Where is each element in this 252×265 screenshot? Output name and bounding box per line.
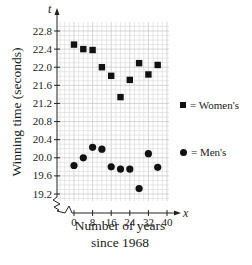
men-data-point: [117, 165, 124, 172]
y-axis-variable-label: t: [48, 2, 52, 16]
y-tick-label: 22.0: [33, 61, 53, 73]
men-data-point: [98, 146, 105, 153]
men-data-point: [126, 165, 133, 172]
men-data-point: [80, 154, 87, 161]
legend-label-men: = Men's: [191, 146, 226, 158]
men-data-point: [108, 163, 115, 170]
square-marker-icon: [180, 102, 186, 108]
men-data-point: [136, 185, 143, 192]
women-data-point: [89, 47, 95, 53]
legend-item-men: = Men's: [180, 145, 239, 159]
y-tick-label: 19.2: [33, 188, 52, 200]
men-data-point: [89, 144, 96, 151]
chart-legend: = Women's = Men's: [180, 98, 239, 192]
y-tick-label: 21.2: [33, 97, 52, 109]
women-data-point: [99, 64, 105, 70]
legend-label-women: = Women's: [190, 99, 239, 111]
men-data-point: [70, 162, 77, 169]
legend-item-women: = Women's: [180, 98, 239, 112]
women-data-point: [108, 73, 114, 79]
women-data-point: [127, 77, 133, 83]
chart-grid: [57, 22, 169, 201]
women-data-point: [71, 41, 77, 47]
women-data-point: [145, 71, 151, 77]
x-axis-label: Number of years since 1968: [40, 217, 200, 251]
y-axis-label: Winning time (seconds): [9, 37, 25, 187]
y-tick-label: 20.8: [33, 115, 53, 127]
x-axis-label-line1: Number of years: [40, 217, 200, 234]
x-axis-label-line2: since 1968: [40, 234, 200, 251]
women-data-point: [80, 46, 86, 52]
y-tick-label: 22.4: [33, 43, 53, 55]
y-tick-label: 19.6: [33, 169, 53, 181]
women-data-point: [117, 94, 123, 100]
circle-marker-icon: [180, 149, 187, 156]
women-data-point: [155, 62, 161, 68]
y-tick-label: 22.8: [33, 25, 53, 37]
y-tick-label: 20.0: [33, 151, 53, 163]
y-tick-label: 21.6: [33, 79, 53, 91]
men-data-point: [145, 150, 152, 157]
y-tick-label: 20.4: [33, 133, 53, 145]
men-data-point: [154, 164, 161, 171]
women-data-point: [136, 60, 142, 66]
